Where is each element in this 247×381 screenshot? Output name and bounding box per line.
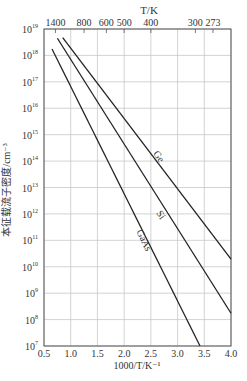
x-tick-label: 2.5 xyxy=(145,348,158,359)
x-tick-label: 2.0 xyxy=(118,348,131,359)
y-tick-label: 1010 xyxy=(22,261,38,273)
intrinsic-carrier-density-chart: 1071081091010101110121013101410151016101… xyxy=(0,0,247,381)
y-tick-label: 108 xyxy=(25,314,38,326)
y-tick-label: 1019 xyxy=(22,23,38,35)
y-tick-label: 1014 xyxy=(22,155,38,167)
y-tick-label: 1011 xyxy=(22,234,38,246)
y-axis-ticks: 1071081091010101110121013101410151016101… xyxy=(22,23,38,352)
x-tick-label: 1.5 xyxy=(91,348,104,359)
y-tick-label: 107 xyxy=(25,340,38,352)
x-axis-ticks: 0.51.01.52.02.53.03.54.0 xyxy=(38,348,238,359)
y-tick-label: 1016 xyxy=(22,102,38,114)
top-tick-label: 600 xyxy=(99,17,114,28)
top-axis-ticks: 1400800600500400300273 xyxy=(45,17,220,33)
y-tick-label: 1013 xyxy=(22,182,38,194)
top-tick-label: 300 xyxy=(188,17,203,28)
x-tick-label: 3.5 xyxy=(198,348,211,359)
x-tick-label: 3.0 xyxy=(171,348,184,359)
y-tick-label: 1018 xyxy=(22,49,38,61)
top-tick-label: 273 xyxy=(205,17,220,28)
series-ge-label: Ge xyxy=(151,148,167,164)
y-axis-title: 本征载流子密度/cm⁻³ xyxy=(0,143,12,236)
y-tick-label: 1015 xyxy=(22,129,38,141)
y-tick-label: 1012 xyxy=(22,208,38,220)
top-tick-label: 500 xyxy=(117,17,132,28)
series-si-line xyxy=(57,38,231,313)
x-axis-title: 1000/T/K⁻¹ xyxy=(113,360,160,371)
grid-lines xyxy=(44,29,231,346)
x-tick-label: 4.0 xyxy=(225,348,238,359)
top-axis-title: T/K xyxy=(140,4,158,16)
series-ge-line xyxy=(63,38,231,259)
x-tick-label: 0.5 xyxy=(38,348,51,359)
y-tick-label: 109 xyxy=(25,287,38,299)
top-tick-label: 400 xyxy=(143,17,158,28)
top-tick-label: 1400 xyxy=(45,17,65,28)
top-tick-label: 800 xyxy=(77,17,92,28)
y-tick-label: 1017 xyxy=(22,76,38,88)
x-tick-label: 1.0 xyxy=(64,348,77,359)
